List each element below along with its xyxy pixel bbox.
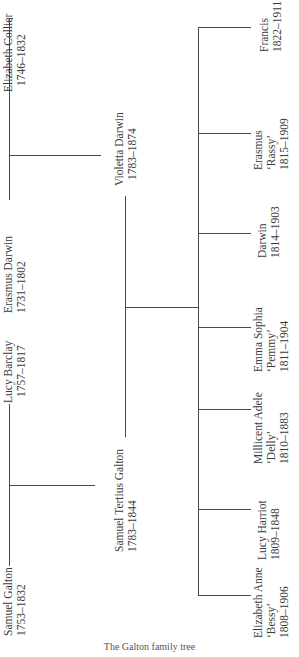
person-samuel-galton: Samuel Galton 1753–1832 <box>2 567 28 636</box>
child-stub-darwin <box>198 233 251 234</box>
person-violetta-darwin: Violetta Darwin 1783–1874 <box>113 112 139 186</box>
child-emma-sophia: Emma Sophia ‘Pemmy’ 1811–1904 <box>252 307 291 372</box>
collier-darwin-descent-line <box>9 155 101 156</box>
child-erasmus: Erasmus ‘Rassy’ 1815–1909 <box>252 118 291 170</box>
tertius-violetta-descent-line <box>125 307 199 308</box>
child-stub-elizabeth <box>198 595 251 596</box>
child-lucy-harriot: Lucy Harriot 1809–1848 <box>256 500 282 560</box>
child-stub-emma <box>198 327 251 328</box>
child-francis: Francis 1822–1911 <box>258 1 284 52</box>
child-elizabeth-anne: Elizabeth Anne ‘Bessy’ 1808–1906 <box>252 567 291 638</box>
person-lucy-barclay: Lucy Barclay 1757–1817 <box>2 341 28 403</box>
child-stub-lucy <box>198 509 251 510</box>
child-millicent-adele: Millicent Adele ‘Delly’ 1810–1883 <box>252 392 291 464</box>
child-stub-millicent <box>198 409 251 410</box>
figure-caption: The Galton family tree <box>0 641 299 652</box>
person-elizabeth-collier: Elizabeth Collier 1746–1832 <box>2 14 28 92</box>
child-stub-erasmus <box>198 133 251 134</box>
child-stub-francis <box>198 27 251 28</box>
tertius-violetta-marriage-line <box>125 196 126 437</box>
person-erasmus-darwin: Erasmus Darwin 1731–1802 <box>2 236 28 313</box>
siblings-bar <box>198 27 199 596</box>
barclay-galton-descent-line <box>9 485 95 486</box>
person-samuel-tertius-galton: Samuel Tertius Galton 1783–1844 <box>113 449 139 552</box>
child-darwin: Darwin 1814–1903 <box>256 206 282 258</box>
